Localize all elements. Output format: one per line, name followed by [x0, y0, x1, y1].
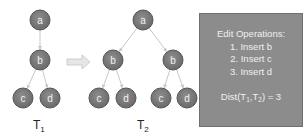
node-label: b — [110, 55, 116, 66]
tree-node-b: b — [163, 50, 183, 70]
tree-node-b: b — [103, 50, 123, 70]
tree-edge — [164, 70, 170, 88]
node-label: c — [159, 93, 164, 104]
tree1-nodes: abcd — [13, 10, 60, 108]
tree-node-d: d — [40, 88, 60, 108]
tree-node-c: c — [151, 88, 171, 108]
node-label: d — [123, 93, 129, 104]
tree2-nodes: abbcdcd — [89, 10, 197, 108]
node-label: b — [170, 55, 176, 66]
tree-edge — [43, 70, 48, 88]
node-label: c — [97, 93, 102, 104]
tree-node-d: d — [177, 88, 197, 108]
node-label: a — [140, 15, 146, 26]
operation-item: 2. Insert c — [200, 53, 302, 66]
distance-result: Dist(T1,T2) = 3 — [200, 91, 302, 107]
operation-item: 1. Insert b — [200, 41, 302, 54]
tree-node-c: c — [89, 88, 109, 108]
tree-edge — [103, 69, 110, 87]
tree-node-b: b — [30, 50, 50, 70]
node-label: a — [37, 15, 43, 26]
tree-node-c: c — [13, 88, 33, 108]
edit-operations-title: Edit Operations: — [200, 28, 302, 41]
tree-edge — [149, 28, 166, 51]
node-label: b — [37, 55, 43, 66]
tree2-label: T2 — [137, 118, 149, 134]
tree-edge — [27, 69, 35, 88]
operation-item: 3. Insert d — [200, 66, 302, 79]
tree-edge — [116, 69, 122, 87]
edit-operations-box: Edit Operations: 1. Insert b 2. Insert c… — [199, 13, 303, 127]
tree-node-d: d — [116, 88, 136, 108]
node-label: d — [184, 93, 190, 104]
tree-edge — [176, 69, 183, 87]
node-label: c — [21, 93, 26, 104]
tree1-label: T1 — [33, 118, 45, 134]
right-arrow-icon — [67, 55, 90, 69]
tree-edge — [120, 28, 137, 51]
tree-node-a: a — [30, 10, 50, 30]
node-label: d — [47, 93, 53, 104]
tree-node-a: a — [133, 10, 153, 30]
